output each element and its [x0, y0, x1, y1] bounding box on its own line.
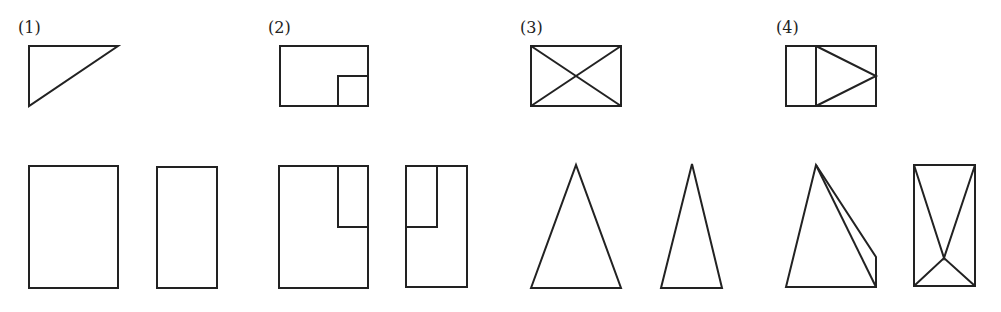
fig4-front-view-outline — [786, 165, 876, 287]
fig1-side-view-rect — [157, 167, 217, 288]
figure-1 — [29, 46, 217, 288]
fig4-side-view-upper-lines — [914, 165, 975, 258]
fig4-front-view-edge — [816, 165, 876, 287]
figure-3 — [531, 46, 722, 288]
figure-2 — [279, 46, 467, 288]
figure-4 — [786, 46, 975, 287]
fig2-side-view-notch — [406, 166, 437, 227]
fig2-front-view-notch — [338, 166, 368, 227]
fig4-side-view-lower-lines — [914, 258, 975, 286]
fig1-top-view-triangle — [29, 46, 118, 106]
fig4-top-view-rect — [786, 46, 876, 106]
fig2-top-view-notch — [338, 76, 368, 106]
fig1-front-view-rect — [29, 166, 118, 288]
fig3-side-view-triangle — [661, 164, 722, 288]
fig4-side-view-rect — [914, 165, 975, 286]
fig3-front-view-triangle — [531, 165, 621, 288]
fig4-top-view-triangle — [816, 46, 876, 106]
three-view-diagram — [0, 0, 1001, 312]
